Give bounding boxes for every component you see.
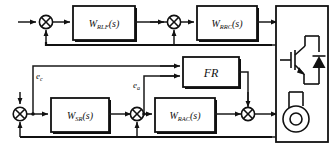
- control-system-diagram: WRLF(s) WRRC(s) FR: [0, 0, 333, 152]
- sum-bottom-left: [13, 107, 27, 121]
- signal-label-ea: ea: [133, 80, 140, 91]
- sum-top-left: [39, 15, 52, 28]
- sum-bottom-mid: [130, 107, 143, 120]
- sum-top-right: [167, 15, 180, 28]
- sum-bottom-right: [241, 107, 254, 120]
- node-ec-junction: [31, 112, 35, 116]
- wire-top-feedback-bus: [46, 42, 272, 45]
- signal-label-ec: ec: [36, 71, 43, 82]
- block-diagram-canvas: WRLF(s) WRRC(s) FR: [0, 0, 333, 152]
- node-ea-junction: [142, 112, 146, 116]
- fr-block-label: FR: [203, 66, 219, 80]
